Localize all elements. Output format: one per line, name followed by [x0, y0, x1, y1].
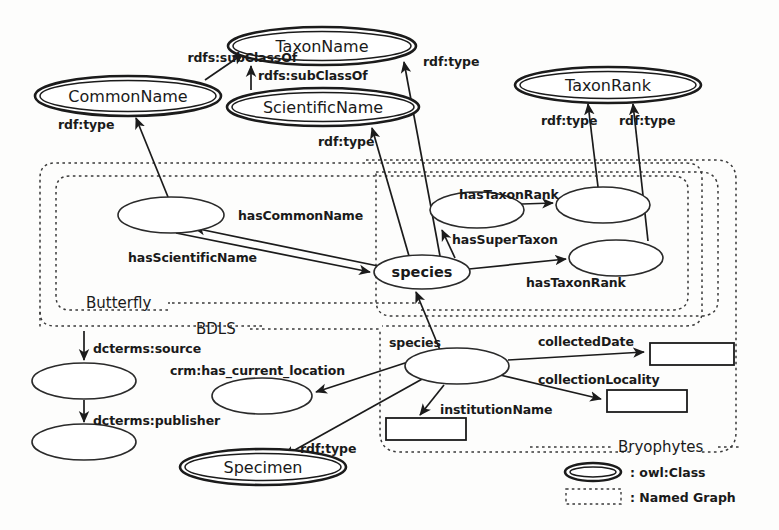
edge-label-rdftype-taxonname: rdf:type	[423, 54, 479, 69]
edge-hastaxonrank-2	[469, 259, 566, 269]
edge-label-hassupertaxon: hasSuperTaxon	[452, 232, 558, 247]
class-label-specimen: Specimen	[224, 458, 303, 477]
blank-node-rank-1[interactable]	[556, 187, 650, 223]
literal-institution-name[interactable]	[386, 418, 466, 440]
class-label-taxonrank: TaxonRank	[564, 76, 652, 95]
named-graph-label-bryophytes: Bryophytes	[618, 438, 704, 456]
named-graph-label-bdls: BDLS	[196, 320, 236, 338]
legend: : owl:Class : Named Graph	[565, 463, 736, 505]
blank-node-species-label: species	[392, 264, 453, 280]
edge-label-hastaxonrank-1: hasTaxonRank	[459, 187, 560, 202]
edge-label-rdftype-scientificname: rdf:type	[318, 134, 374, 149]
diagram-canvas: species CommonName TaxonName ScientificN…	[0, 0, 779, 530]
edge-label-collectionlocality: collectionLocality	[538, 372, 660, 387]
named-graph-label-butterfly: Butterfly	[86, 294, 151, 312]
edge-rdftype-commonname	[136, 118, 168, 197]
blank-node-publisher[interactable]	[32, 424, 136, 460]
legend-symbol-named-graph	[566, 489, 621, 504]
class-label-scientificname: ScientificName	[263, 98, 383, 117]
edge-label-hascommonname: hasCommonName	[238, 208, 363, 223]
edge-label-hastaxonrank-2: hasTaxonRank	[526, 275, 627, 290]
blank-node-rank-2[interactable]	[569, 240, 663, 276]
edge-label-rdfs-subclassof-common: rdfs:subClassOf	[187, 50, 297, 65]
edge-label-institutionname: institutionName	[440, 402, 552, 417]
edge-label-species-link: species	[389, 335, 441, 350]
blank-node-location[interactable]	[212, 378, 312, 414]
class-node-scientificname[interactable]: ScientificName	[227, 88, 419, 126]
edge-rdftype-scientificname	[372, 128, 409, 256]
blank-node-common-name[interactable]	[118, 197, 224, 233]
blank-node-bryophyte-specimen[interactable]	[405, 348, 509, 384]
edge-rdftype-taxonname	[404, 62, 440, 256]
edge-label-rdfs-subclassof-scientific: rdfs:subClassOf	[258, 68, 368, 83]
edge-hastaxonrank-1	[522, 203, 553, 204]
edge-label-crm-has-current-location: crm:has_current_location	[170, 363, 345, 379]
blank-node-source[interactable]	[32, 363, 136, 399]
class-node-commonname[interactable]: CommonName	[35, 76, 221, 116]
rdf-graph-diagram: species CommonName TaxonName ScientificN…	[0, 0, 779, 530]
legend-label-owl-class: : owl:Class	[630, 465, 706, 480]
literal-collected-date[interactable]	[650, 343, 734, 365]
edge-label-rdftype-commonname: rdf:type	[58, 117, 114, 132]
legend-symbol-owl-class	[565, 463, 621, 481]
edge-label-collecteddate: collectedDate	[538, 334, 634, 349]
edge-label-dcterms-publisher: dcterms:publisher	[93, 413, 221, 428]
class-label-commonname: CommonName	[68, 87, 187, 106]
legend-label-named-graph: : Named Graph	[630, 490, 736, 505]
edge-collecteddate	[508, 352, 644, 360]
literal-collection-locality[interactable]	[607, 390, 687, 412]
class-node-taxonrank[interactable]: TaxonRank	[515, 67, 701, 103]
edge-label-dcterms-source: dcterms:source	[93, 341, 201, 356]
edge-label-rdftype-taxonrank-2: rdf:type	[619, 113, 675, 128]
edge-label-rdftype-specimen: rdf:type	[300, 441, 356, 456]
edge-label-rdftype-taxonrank-1: rdf:type	[541, 113, 597, 128]
edge-label-hasscientificname: hasScientificName	[128, 250, 257, 265]
